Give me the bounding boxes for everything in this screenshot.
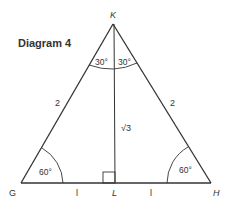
- side-KH: [113, 24, 211, 183]
- angle-label-G: 60°: [39, 167, 52, 177]
- triangle-diagram: Diagram 4 K G H L 30° 30° 60° 60° 2 2 √3…: [0, 0, 231, 205]
- diagram-canvas: Diagram 4 K G H L 30° 30° 60° 60° 2 2 √3…: [0, 0, 231, 205]
- side-label-KL: √3: [121, 123, 131, 133]
- diagram-title: Diagram 4: [18, 37, 72, 49]
- vertex-label-L: L: [112, 188, 117, 198]
- side-label-LH: l: [150, 188, 152, 198]
- altitude-KL: [114, 24, 115, 183]
- right-angle-marker: [103, 172, 115, 183]
- side-label-KH: 2: [170, 98, 175, 108]
- side-label-GL: l: [76, 188, 78, 198]
- angle-label-K-right: 30°: [118, 57, 131, 67]
- angle-arc-G: [42, 148, 63, 183]
- angle-label-H: 60°: [179, 165, 192, 175]
- vertex-label-K: K: [110, 10, 117, 20]
- side-label-GK: 2: [55, 98, 60, 108]
- vertex-label-G: G: [9, 188, 16, 198]
- vertex-label-H: H: [213, 188, 220, 198]
- angle-label-K-left: 30°: [95, 57, 108, 67]
